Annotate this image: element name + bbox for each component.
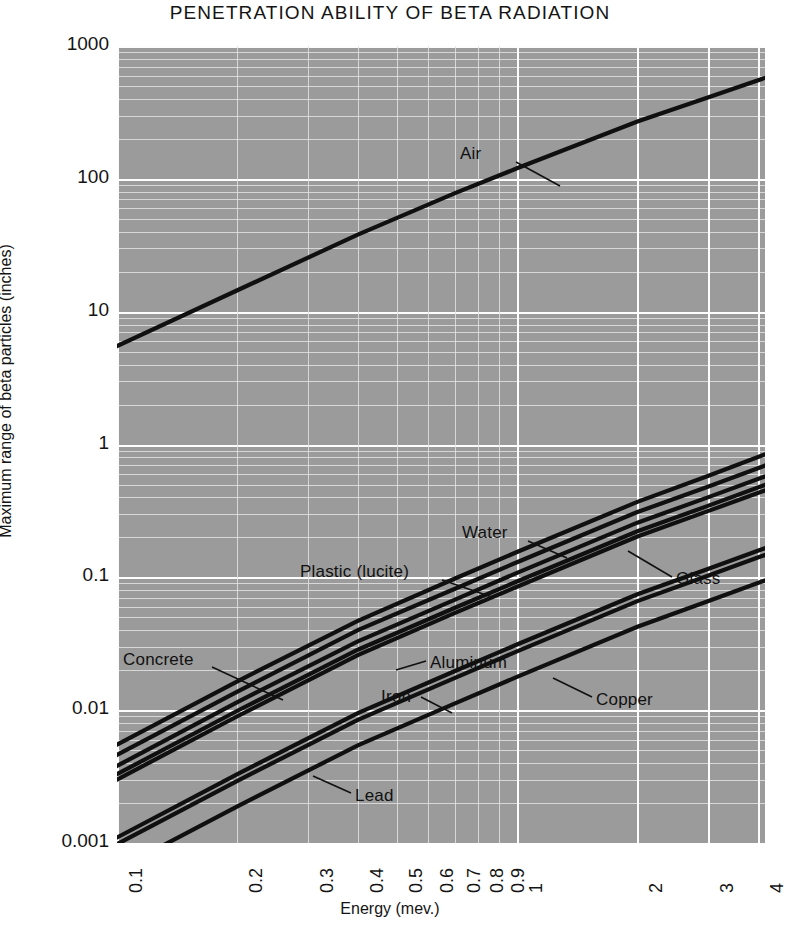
curve-copper — [117, 555, 765, 843]
x-tick-label: 0.4 — [367, 868, 388, 893]
x-tick-label: 4 — [767, 883, 788, 893]
curves-svg — [117, 46, 765, 843]
curve-label-water: Water — [462, 523, 508, 543]
y-tick-label: 0.001 — [5, 830, 109, 852]
y-tick-label: 0.1 — [5, 564, 109, 586]
y-tick-label: 1 — [5, 432, 109, 454]
x-tick-label: 3 — [717, 883, 738, 893]
x-tick-label: 0.7 — [464, 868, 485, 893]
curve-label-iron: Iron — [381, 687, 411, 707]
curve-air — [117, 77, 765, 346]
curve-layer — [117, 46, 765, 843]
x-tick-label: 0.5 — [406, 868, 427, 893]
curve-label-plastic-lucite: Plastic (lucite) — [300, 562, 409, 582]
curve-label-concrete: Concrete — [123, 650, 194, 670]
y-tick-label: 100 — [5, 166, 109, 188]
curve-water — [117, 454, 765, 745]
x-tick-label: 0.3 — [317, 868, 338, 893]
curve-label-aluminum: Aluminum — [430, 653, 507, 673]
x-axis-label: Energy (mev.) — [0, 900, 780, 918]
curve-label-lead: Lead — [355, 786, 394, 806]
y-tick-label: 0.01 — [5, 697, 109, 719]
curve-label-copper: Copper — [596, 690, 653, 710]
x-tick-label: 2 — [646, 883, 667, 893]
x-tick-label: 0.1 — [126, 868, 147, 893]
x-tick-label: 1 — [526, 883, 547, 893]
x-tick-label: 0.2 — [246, 868, 267, 893]
x-tick-label: 0.6 — [437, 868, 458, 893]
curve-label-glass: Glass — [676, 569, 720, 589]
plot-area — [117, 46, 765, 843]
y-tick-label: 10 — [5, 299, 109, 321]
page-title: PENETRATION ABILITY OF BETA RADIATION — [0, 2, 780, 24]
x-tick-label: 0.8 — [487, 868, 508, 893]
curve-label-air: Air — [460, 144, 481, 164]
y-tick-label: 1000 — [5, 33, 109, 55]
curve-aluminum — [117, 490, 765, 780]
